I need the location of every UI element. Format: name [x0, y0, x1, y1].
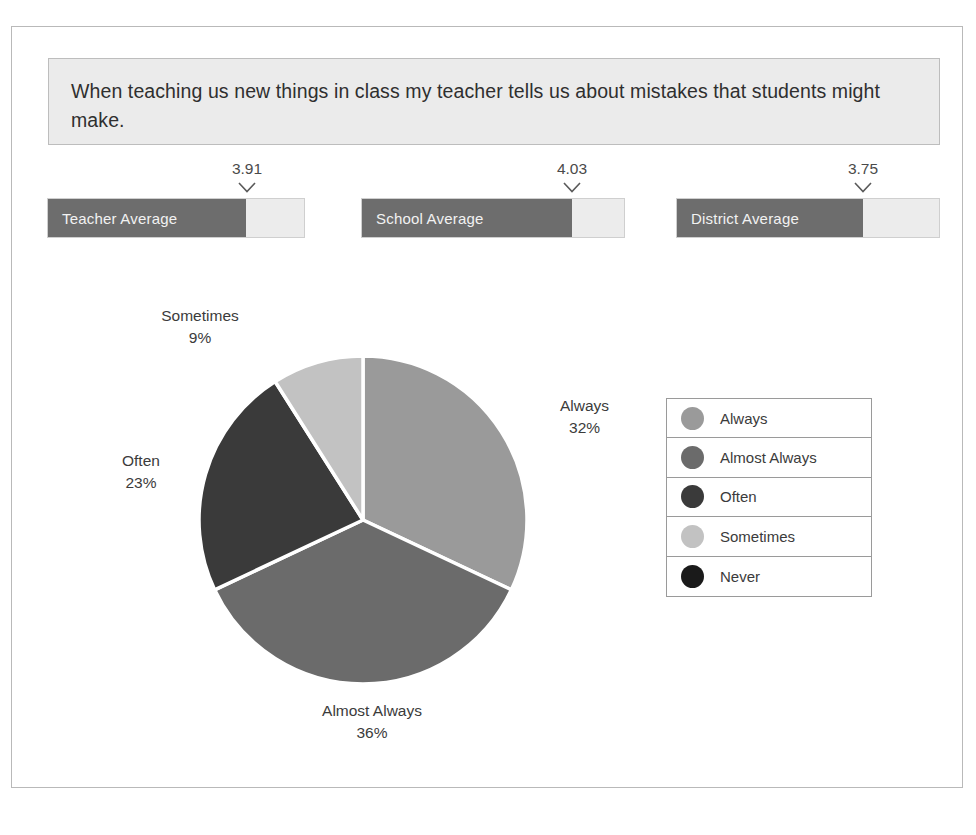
legend-label-never: Never: [720, 568, 760, 585]
pie-chart: [198, 355, 528, 685]
pie-slices: [199, 356, 527, 684]
legend-label-often: Often: [720, 488, 757, 505]
chevron-down-icon-teacher: [238, 182, 256, 193]
pie-label-always: Always 32%: [560, 395, 609, 439]
legend-label-always: Always: [720, 410, 768, 427]
average-group-school: 4.03 School Average: [361, 160, 625, 250]
average-bar-teacher: Teacher Average: [47, 198, 305, 238]
legend-swatch-sometimes-icon: [681, 525, 704, 548]
legend-item-often[interactable]: Often: [667, 478, 871, 517]
average-bar-school: School Average: [361, 198, 625, 238]
question-text: When teaching us new things in class my …: [71, 77, 917, 135]
average-group-teacher: 3.91 Teacher Average: [47, 160, 305, 250]
pie-label-sometimes-percent: 9%: [189, 329, 211, 346]
pie-label-often: Often 23%: [122, 450, 160, 494]
average-value-school: 4.03: [557, 160, 587, 178]
legend-swatch-often-icon: [681, 485, 704, 508]
average-group-district: 3.75 District Average: [676, 160, 940, 250]
pie-chart-svg: [198, 355, 528, 685]
question-banner: When teaching us new things in class my …: [48, 58, 940, 145]
average-label-teacher: Teacher Average: [62, 199, 177, 237]
pie-label-sometimes: Sometimes 9%: [161, 305, 239, 349]
legend-item-always[interactable]: Always: [667, 399, 871, 438]
chevron-down-icon-district: [854, 182, 872, 193]
pie-label-almost-always-name: Almost Always: [322, 702, 422, 719]
pie-label-always-name: Always: [560, 397, 609, 414]
pie-label-always-percent: 32%: [569, 419, 600, 436]
pie-label-almost-always-percent: 36%: [356, 724, 387, 741]
average-value-teacher: 3.91: [232, 160, 262, 178]
survey-report-page: When teaching us new things in class my …: [0, 0, 976, 835]
legend-item-sometimes[interactable]: Sometimes: [667, 517, 871, 556]
legend-label-sometimes: Sometimes: [720, 528, 795, 545]
legend-item-almost-always[interactable]: Almost Always: [667, 438, 871, 477]
legend-item-never[interactable]: Never: [667, 557, 871, 596]
pie-label-often-percent: 23%: [125, 474, 156, 491]
pie-label-almost-always: Almost Always 36%: [322, 700, 422, 744]
pie-label-sometimes-name: Sometimes: [161, 307, 239, 324]
average-label-school: School Average: [376, 199, 484, 237]
average-label-district: District Average: [691, 199, 799, 237]
chevron-down-icon-school: [563, 182, 581, 193]
legend-label-almost-always: Almost Always: [720, 449, 817, 466]
chart-legend: Always Almost Always Often Sometimes Nev…: [666, 398, 872, 597]
legend-swatch-almost-always-icon: [681, 446, 704, 469]
average-value-district: 3.75: [848, 160, 878, 178]
legend-swatch-always-icon: [681, 407, 704, 430]
average-bar-district: District Average: [676, 198, 940, 238]
legend-swatch-never-icon: [681, 565, 704, 588]
pie-label-often-name: Often: [122, 452, 160, 469]
